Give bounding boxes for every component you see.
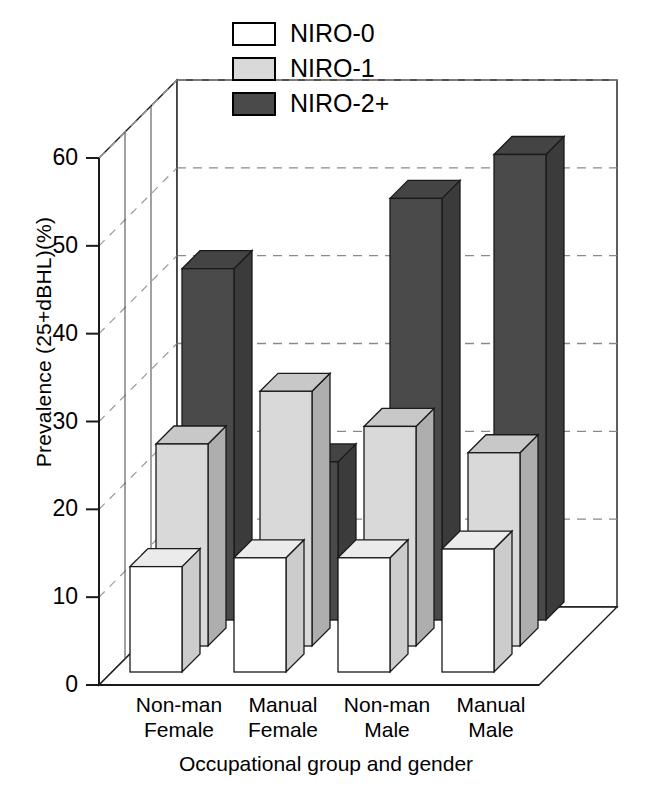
bar-side-face — [416, 408, 434, 646]
legend-swatch-niro-1 — [232, 57, 276, 81]
bar-side-face — [312, 373, 330, 646]
y-axis-tick-label-30: 30 — [20, 410, 78, 433]
bar-side-face — [494, 531, 512, 672]
x-cat-line-1: Manual — [426, 692, 556, 717]
y-axis-tick-label-50: 50 — [20, 234, 78, 257]
bar-side-face — [286, 540, 304, 672]
y-axis-tick-label-20: 20 — [20, 497, 78, 520]
legend-swatch-niro-0 — [232, 22, 276, 46]
bar-front-face — [442, 549, 494, 672]
y-axis-tick-label-60: 60 — [20, 146, 78, 169]
bar-niro-0-group-2 — [234, 540, 304, 672]
legend-item-niro-1: NIRO-1 — [232, 53, 389, 84]
bar-front-face — [130, 567, 182, 672]
bar-side-face — [208, 426, 226, 646]
legend-label-niro-0: NIRO-0 — [290, 21, 375, 46]
legend-swatch-niro-2plus — [232, 92, 276, 116]
legend-item-niro-0: NIRO-0 — [232, 18, 389, 49]
x-axis-title: Occupational group and gender — [0, 752, 652, 776]
bar-niro-0-group-3 — [338, 540, 408, 672]
y-axis-tick-label-40: 40 — [20, 322, 78, 345]
bar-niro-0-group-4 — [442, 531, 512, 672]
y-axis-tick-label-0: 0 — [20, 673, 78, 696]
bar-side-face — [182, 549, 200, 672]
bar-side-face — [390, 540, 408, 672]
bar-niro-0-group-1 — [130, 549, 200, 672]
bar-front-face — [234, 558, 286, 672]
legend-label-niro-1: NIRO-1 — [290, 56, 375, 81]
x-axis-category-label-4: ManualMale — [426, 692, 556, 742]
legend-label-niro-2plus: NIRO-2+ — [290, 91, 389, 116]
bar-side-face — [520, 435, 538, 646]
y-axis-tick-label-10: 10 — [20, 585, 78, 608]
chart-figure: Prevalence (25+dBHL)(%) 0102030405060 No… — [0, 0, 652, 786]
x-cat-line-2: Male — [426, 717, 556, 742]
bar-front-face — [338, 558, 390, 672]
legend-item-niro-2plus: NIRO-2+ — [232, 88, 389, 119]
bar-side-face — [546, 136, 564, 620]
legend: NIRO-0 NIRO-1 NIRO-2+ — [232, 18, 389, 123]
